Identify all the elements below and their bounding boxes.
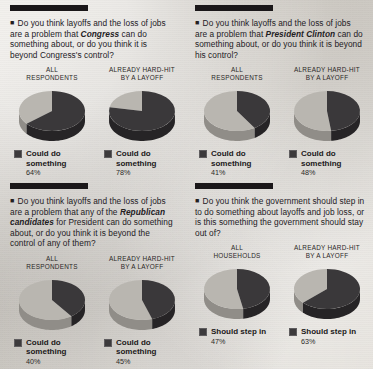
question-part-pre: Do you think the government should step … bbox=[195, 196, 364, 238]
legend-label-text: Could do something bbox=[116, 149, 156, 167]
legend-percent: 64% bbox=[26, 168, 40, 177]
pie-chart bbox=[100, 273, 184, 335]
group-header-line2: BY A LAYOFF bbox=[121, 263, 164, 270]
group-header: ALREADY HARD-HITBY A LAYOFF bbox=[109, 66, 175, 82]
bullet-icon: ■ bbox=[10, 197, 15, 204]
chart-legend: Could do something45% bbox=[100, 338, 184, 366]
pie-chart bbox=[195, 262, 279, 324]
pie-chart bbox=[195, 84, 279, 146]
bullet-icon: ■ bbox=[195, 19, 200, 26]
legend-percent: 78% bbox=[116, 168, 130, 177]
chart-legend: Should step in47% bbox=[195, 327, 266, 346]
legend-label: Could do something64% bbox=[26, 149, 94, 177]
group-header-line2: RESPONDENTS bbox=[211, 74, 262, 81]
bullet-icon: ■ bbox=[10, 19, 15, 26]
question-text: ■ Do you think layoffs and the loss of j… bbox=[10, 18, 175, 60]
section-rule bbox=[195, 183, 273, 189]
legend-label-text: Could do something bbox=[301, 149, 341, 167]
group-header: ALREADY HARD-HITBY A LAYOFF bbox=[294, 244, 360, 260]
pie-chart bbox=[285, 262, 369, 324]
group-header-line1: ALL bbox=[231, 244, 243, 251]
group-header: ALREADY HARD-HITBY A LAYOFF bbox=[294, 66, 360, 82]
group-header-line2: RESPONDENTS bbox=[26, 263, 77, 270]
legend-label: Could do something41% bbox=[211, 149, 279, 177]
chart-row: ALLRESPONDENTS Could do something64% ALR… bbox=[10, 66, 175, 177]
pie-chart bbox=[285, 84, 369, 146]
legend-swatch bbox=[104, 150, 112, 158]
legend-swatch bbox=[289, 150, 297, 158]
chart-group: ALLRESPONDENTS Could do something41% bbox=[195, 66, 279, 177]
chart-group: ALLRESPONDENTS Could do something40% bbox=[10, 255, 94, 366]
legend-label: Could do something40% bbox=[26, 338, 94, 366]
poll-panel-republican-candidates: ■ Do you think layoffs and the loss of j… bbox=[0, 178, 183, 369]
chart-group: ALREADY HARD-HITBY A LAYOFF Could do som… bbox=[100, 255, 184, 366]
chart-legend: Could do something64% bbox=[10, 149, 94, 177]
legend-label: Could do something78% bbox=[116, 149, 184, 177]
poll-panel-president-clinton: ■ Do you think layoffs and the loss of j… bbox=[183, 0, 373, 178]
poll-panel-grid: ■ Do you think layoffs and the loss of j… bbox=[0, 0, 373, 369]
chart-legend: Should step in63% bbox=[285, 327, 356, 346]
legend-label: Should step in47% bbox=[211, 327, 266, 346]
chart-group: ALREADY HARD-HITBY A LAYOFF Could do som… bbox=[285, 66, 369, 177]
group-header-line1: ALREADY HARD-HIT bbox=[109, 66, 175, 73]
poll-panel-congress: ■ Do you think layoffs and the loss of j… bbox=[0, 0, 183, 178]
legend-swatch bbox=[104, 339, 112, 347]
group-header-line2: HOUSEHOLDS bbox=[213, 252, 260, 259]
chart-legend: Could do something40% bbox=[10, 338, 94, 366]
legend-percent: 45% bbox=[116, 357, 130, 366]
legend-label-text: Could do something bbox=[26, 149, 66, 167]
group-header-line1: ALREADY HARD-HIT bbox=[294, 244, 360, 251]
legend-label-text: Could do something bbox=[26, 338, 66, 356]
legend-label-text: Should step in bbox=[301, 327, 356, 336]
legend-swatch bbox=[199, 150, 207, 158]
legend-swatch bbox=[14, 150, 22, 158]
group-header-line2: RESPONDENTS bbox=[26, 74, 77, 81]
legend-label: Could do something45% bbox=[116, 338, 184, 366]
legend-percent: 47% bbox=[211, 337, 225, 346]
legend-percent: 41% bbox=[211, 168, 225, 177]
pie-chart bbox=[100, 84, 184, 146]
legend-swatch bbox=[289, 328, 297, 336]
bullet-icon: ■ bbox=[195, 197, 200, 204]
group-header-line1: ALREADY HARD-HIT bbox=[109, 255, 175, 262]
legend-swatch bbox=[14, 339, 22, 347]
group-header-line2: BY A LAYOFF bbox=[306, 74, 349, 81]
group-header: ALLHOUSEHOLDS bbox=[213, 244, 260, 260]
legend-label-text: Could do something bbox=[116, 338, 156, 356]
question-text: ■ Do you think layoffs and the loss of j… bbox=[195, 18, 365, 60]
chart-group: ALLHOUSEHOLDS Should step in47% bbox=[195, 244, 279, 346]
group-header-line1: ALREADY HARD-HIT bbox=[294, 66, 360, 73]
section-rule bbox=[10, 5, 88, 11]
group-header-line2: BY A LAYOFF bbox=[306, 252, 349, 259]
group-header-line2: BY A LAYOFF bbox=[121, 74, 164, 81]
chart-legend: Could do something78% bbox=[100, 149, 184, 177]
group-header-line1: ALL bbox=[46, 255, 58, 262]
chart-row: ALLRESPONDENTS Could do something41% ALR… bbox=[195, 66, 365, 177]
group-header: ALLRESPONDENTS bbox=[211, 66, 262, 82]
question-text: ■ Do you think layoffs and the loss of j… bbox=[10, 196, 175, 249]
pie-chart bbox=[10, 273, 94, 335]
group-header: ALREADY HARD-HITBY A LAYOFF bbox=[109, 255, 175, 271]
section-rule bbox=[10, 183, 88, 189]
legend-label-text: Could do something bbox=[211, 149, 251, 167]
question-emphasis: Congress bbox=[81, 29, 120, 39]
chart-group: ALREADY HARD-HITBY A LAYOFF Should step … bbox=[285, 244, 369, 346]
group-header-line1: ALL bbox=[231, 66, 243, 73]
legend-percent: 63% bbox=[301, 337, 315, 346]
group-header: ALLRESPONDENTS bbox=[26, 66, 77, 82]
group-header-line1: ALL bbox=[46, 66, 58, 73]
chart-group: ALREADY HARD-HITBY A LAYOFF Could do som… bbox=[100, 66, 184, 177]
chart-row: ALLRESPONDENTS Could do something40% ALR… bbox=[10, 255, 175, 366]
poll-panel-government-step-in: ■ Do you think the government should ste… bbox=[183, 178, 373, 369]
chart-group: ALLRESPONDENTS Could do something64% bbox=[10, 66, 94, 177]
group-header: ALLRESPONDENTS bbox=[26, 255, 77, 271]
legend-label: Should step in63% bbox=[301, 327, 356, 346]
pie-chart bbox=[10, 84, 94, 146]
chart-legend: Could do something48% bbox=[285, 149, 369, 177]
question-text: ■ Do you think the government should ste… bbox=[195, 196, 365, 238]
question-emphasis: President Clinton bbox=[266, 29, 336, 39]
legend-percent: 48% bbox=[301, 168, 315, 177]
legend-label: Could do something48% bbox=[301, 149, 369, 177]
legend-swatch bbox=[199, 328, 207, 336]
legend-label-text: Should step in bbox=[211, 327, 266, 336]
